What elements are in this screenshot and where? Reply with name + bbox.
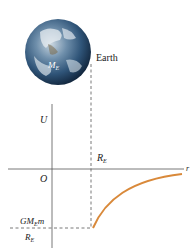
earth-image [25,19,91,85]
u-axis-label: U [40,115,47,125]
radius-label: RE [97,153,107,164]
earth-label: Earth [96,53,118,63]
potential-curve [93,174,182,228]
r-axis-label: r [186,165,189,173]
earth-mass-label: ME [48,61,59,71]
min-value-denominator: RE [25,233,34,243]
origin-label: O [40,174,47,184]
min-value-numerator: GMEm [20,217,44,227]
potential-energy-diagram [0,0,195,252]
